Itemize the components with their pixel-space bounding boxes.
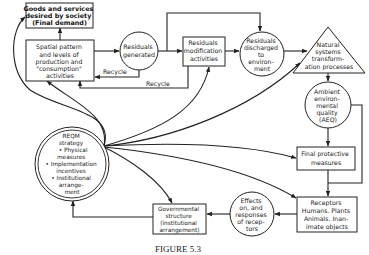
effects-line-5: tors: [246, 225, 258, 232]
node-natural: Natural systems transform- ation process…: [293, 27, 365, 73]
svg-text:Residuals generated: Residuals generated: [123, 43, 155, 59]
spatial-line-5: activities: [46, 72, 74, 79]
node-goods: Goods and services desired by society (F…: [23, 3, 95, 28]
reqm-line-4: measures: [57, 154, 85, 160]
receptors-line-4: imate objects: [306, 223, 348, 231]
node-final-protective: Final protective measures: [297, 147, 355, 170]
reqm-line-1: REQM: [62, 133, 79, 139]
node-spatial: Spatial pattern and levels of production…: [26, 40, 94, 81]
recycle-label-1: Recycle: [103, 68, 127, 76]
aeq-line-1: Ambient: [314, 88, 341, 95]
governmental-line-1: Governmental: [158, 206, 200, 212]
reqm-line-3: • Physical: [59, 147, 88, 154]
aeq-line-5: (AEQ): [319, 116, 337, 123]
modification-line-2: modification: [184, 47, 222, 54]
reqm-line-7: • Institutional: [51, 175, 91, 181]
receptors-line-1: Receptors: [311, 199, 342, 207]
receptors-line-2: Humans. Plants: [302, 207, 350, 214]
natural-line-4: ation processes: [305, 63, 353, 71]
node-generated: Residuals generated: [120, 32, 158, 70]
node-receptors: Receptors Humans. Plants Animals. Inan- …: [297, 197, 357, 232]
natural-line-3: transform-: [312, 55, 345, 62]
natural-line-1: Natural: [317, 41, 340, 48]
modification-line-1: Residuals: [188, 39, 217, 46]
reqm-line-2: strategy: [59, 140, 84, 147]
node-effects: Effects on, and responses of recep- tors: [230, 192, 274, 236]
effects-line-2: on, and: [239, 204, 262, 211]
edge-reqm-natural: [104, 63, 300, 146]
discharged-line-5: ment: [254, 65, 271, 72]
svg-text:Goods and services desir: Goods and services desired by society (F…: [23, 5, 95, 27]
edge-governmental-reqm: [73, 201, 153, 217]
recycle-label-2: Recycle: [146, 80, 170, 88]
governmental-line-3: (institutional: [160, 220, 197, 226]
node-reqm: REQM strategy • Physical measures • Impl…: [35, 127, 109, 201]
node-discharged: Residuals discharged to environ- ment: [240, 32, 284, 76]
aeq-line-2: environ-: [314, 95, 339, 102]
svg-text:Governmental structure: Governmental structure (institutional ar…: [158, 206, 201, 234]
modification-line-3: activities: [190, 55, 218, 62]
governmental-line-2: structure: [165, 213, 192, 219]
node-governmental: Governmental structure (institutional ar…: [153, 204, 206, 234]
generated-line-2: generated: [123, 51, 155, 59]
discharged-line-3: to: [258, 51, 264, 58]
svg-text:Natural systems tr: Natural systems transform- ation process…: [305, 41, 353, 71]
edge-reqm-receptors: [104, 147, 296, 198]
discharged-line-1: Residuals: [246, 37, 275, 44]
discharged-line-4: environ-: [248, 58, 273, 65]
generated-line-1: Residuals: [123, 43, 152, 50]
aeq-line-3: mental: [316, 102, 338, 109]
edge-reqm-final: [104, 144, 296, 158]
spatial-line-2: and levels of: [39, 51, 79, 58]
goods-line-3: (Final demand): [32, 19, 87, 27]
reqm-line-5: • Implementation: [45, 161, 97, 168]
governmental-line-4: arrangement): [159, 227, 199, 234]
reqm-line-9: ment: [64, 189, 80, 195]
reqm-line-6: incentives: [56, 168, 86, 174]
final-line-1: Final protective: [301, 150, 349, 158]
final-line-2: measures: [311, 159, 341, 166]
receptors-line-3: Animals. Inan-: [304, 215, 348, 222]
reqm-line-8: arrange-: [59, 182, 84, 189]
node-modification: Residuals modification activities: [183, 37, 225, 66]
effects-line-1: Effects: [241, 197, 262, 204]
edge-reqm-modification: [104, 67, 209, 146]
edge-reqm-governmental: [104, 147, 172, 203]
node-aeq: Ambient environ- mental quality (AEQ): [305, 82, 351, 128]
diagram-canvas: Goods and services desired by society (F…: [0, 0, 369, 255]
figure-caption: FIGURE 5.3: [155, 244, 202, 254]
